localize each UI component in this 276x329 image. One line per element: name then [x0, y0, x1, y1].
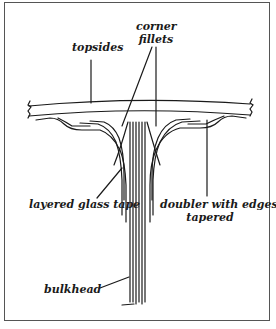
leader-bulkhead [100, 277, 129, 288]
label-layered-glass-tape: layered glass tape [29, 199, 140, 211]
label-doubler-line1: doubler with edges [160, 199, 260, 211]
leader-corner-fillet-left [122, 47, 152, 126]
label-corner-fillets-line1: corner [136, 21, 176, 33]
topsides-panel-bottom [29, 111, 250, 116]
leader-layered-glass-tape [97, 168, 122, 198]
break-mark-right [250, 99, 253, 116]
label-bulkhead: bulkhead [44, 284, 101, 296]
label-doubler-line2: tapered [160, 212, 260, 224]
label-topsides: topsides [72, 42, 123, 54]
label-corner-fillets-line2: fillets [136, 34, 176, 46]
joint-cross-section-drawing [0, 0, 276, 329]
topsides-panel-top [29, 100, 250, 106]
